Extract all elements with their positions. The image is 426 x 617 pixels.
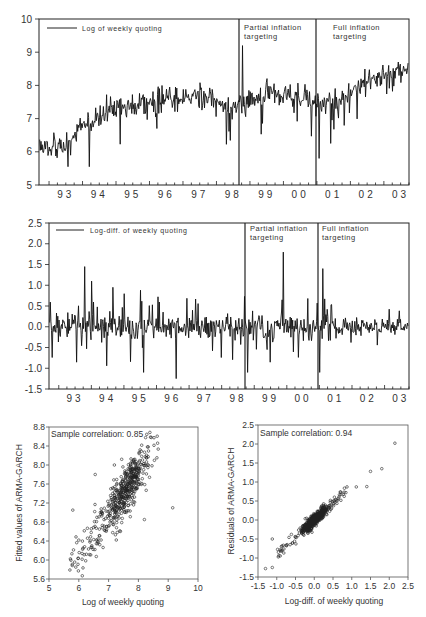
x-tick-label: 03	[392, 393, 409, 404]
scatter-points	[69, 431, 174, 577]
x-axis-title: Log of weekly quoting	[82, 597, 164, 607]
y-axis: -1.5-1.0-0.50.00.51.01.52.02.5	[239, 420, 258, 582]
x-tick-label: 97	[197, 393, 214, 404]
series-line	[40, 46, 408, 167]
x-tick-label: 96	[164, 393, 181, 404]
y-axis-title: Residuals of ARMA-GARCH	[226, 448, 236, 555]
y-tick-label: 2.0	[28, 238, 42, 249]
x-axis: 9394959697989900010203	[59, 385, 410, 404]
full-targeting-label-1: Full inflation	[322, 224, 369, 233]
x-tick-label: 98	[225, 189, 242, 200]
y-tick-label: 6.8	[33, 517, 45, 527]
x-tick-label: 01	[325, 189, 342, 200]
y-tick-label: 7.6	[33, 479, 45, 489]
correlation-label: Sample correlation: 0.85	[51, 429, 143, 439]
y-tick-label: 0.0	[28, 321, 42, 332]
partial-targeting-label-1: Partial inflation	[244, 23, 302, 32]
y-axis: 5.66.06.46.87.27.68.08.48.8	[33, 422, 49, 584]
scatter-points	[264, 442, 396, 570]
y-tick-label: 5	[26, 180, 32, 191]
x-tick-label: 7	[106, 583, 111, 593]
y-tick-label: 8.8	[33, 422, 45, 432]
y-tick-label: 0.5	[242, 496, 254, 506]
y-tick-label: 2.0	[242, 439, 254, 449]
y-tick-label: 0.5	[28, 301, 42, 312]
panel-scatter-residuals: -1.5-1.0-0.50.00.51.01.52.02.5 -1.5-1.0-…	[226, 420, 414, 606]
y-tick-label: 9	[26, 47, 32, 58]
x-tick-label: -0.5	[288, 581, 303, 591]
legend-label: Log of weekly quoting	[82, 25, 162, 33]
y-tick-label: 8	[26, 80, 32, 91]
x-tick-label: 5	[47, 583, 52, 593]
correlation-label: Sample correlation: 0.94	[260, 428, 352, 438]
series-line	[50, 252, 408, 379]
x-tick-label: -1.5	[251, 581, 266, 591]
x-tick-label: 2.5	[402, 581, 414, 591]
x-tick-label: 9	[166, 583, 171, 593]
panel-scatter-fitted: 5.66.06.46.87.27.68.08.48.8 5678910 Samp…	[14, 422, 203, 607]
y-axis: 5678910	[21, 14, 39, 191]
y-tick-label: 2.5	[28, 218, 42, 229]
panel-log-weekly-quoting: 5678910 9394959697989900010203 Log of we…	[21, 14, 409, 201]
x-tick-label: 1.0	[346, 581, 358, 591]
y-tick-label: 1.0	[242, 477, 254, 487]
plot-frame	[39, 19, 409, 185]
x-tick-label: 03	[392, 189, 409, 200]
x-tick-label: 1.5	[365, 581, 377, 591]
figure-canvas: 5678910 9394959697989900010203 Log of we…	[0, 0, 426, 617]
y-tick-label: 6.4	[33, 536, 45, 546]
y-tick-label: 2.5	[242, 420, 254, 430]
x-tick-label: 96	[158, 189, 175, 200]
x-tick-label: 93	[57, 189, 74, 200]
y-tick-label: 10	[21, 14, 33, 25]
x-tick-label: 01	[327, 393, 344, 404]
x-tick-label: 94	[99, 393, 116, 404]
x-tick-label: 10	[193, 583, 203, 593]
y-axis-title: Fitted values of ARMA-GARCH	[14, 444, 24, 562]
x-tick-label: -1.0	[269, 581, 284, 591]
y-tick-label: 7	[26, 113, 32, 124]
y-tick-label: 0.0	[242, 515, 254, 525]
panel-log-diff-weekly-quoting: -1.5-1.0-0.50.00.51.01.52.02.5 939495969…	[25, 218, 410, 405]
x-tick-label: 95	[124, 189, 141, 200]
y-axis: -1.5-1.0-0.50.00.51.01.52.02.5	[25, 218, 49, 395]
y-tick-label: -1.0	[25, 363, 43, 374]
y-tick-label: 6.0	[33, 555, 45, 565]
y-tick-label: -0.5	[25, 342, 43, 353]
x-tick-label: 98	[229, 393, 246, 404]
x-tick-label: 95	[132, 393, 149, 404]
y-tick-label: 7.2	[33, 498, 45, 508]
y-tick-label: -1.5	[25, 384, 43, 395]
x-axis: 9394959697989900010203	[49, 181, 409, 200]
x-tick-label: 00	[292, 189, 309, 200]
plot-frame	[49, 223, 409, 389]
full-targeting-label-2: targeting	[333, 32, 367, 41]
x-tick-label: 6	[76, 583, 81, 593]
x-tick-label: 94	[91, 189, 108, 200]
full-targeting-label-1: Full inflation	[333, 23, 380, 32]
y-tick-label: 5.6	[33, 574, 45, 584]
y-tick-label: -0.5	[239, 534, 254, 544]
x-tick-label: 8	[136, 583, 141, 593]
x-tick-label: 0.5	[327, 581, 339, 591]
y-tick-label: 1.0	[28, 280, 42, 291]
y-tick-label: 1.5	[242, 458, 254, 468]
y-tick-label: 8.0	[33, 460, 45, 470]
legend-label: Log-diff. of weekly quoting	[90, 227, 187, 235]
x-tick-label: 99	[262, 393, 279, 404]
x-tick-label: 99	[258, 189, 275, 200]
x-tick-label: 02	[360, 393, 377, 404]
y-tick-label: -1.0	[239, 553, 254, 563]
y-tick-label: 6	[26, 146, 32, 157]
y-tick-label: 8.4	[33, 441, 45, 451]
y-tick-label: 1.5	[28, 259, 42, 270]
partial-targeting-label-1: Partial inflation	[250, 224, 308, 233]
x-axis-title: Log-diff. of weekly quoting	[285, 596, 384, 606]
x-axis: -1.5-1.0-0.50.00.51.01.52.02.5	[251, 577, 415, 591]
x-axis: 5678910	[47, 579, 203, 593]
x-tick-label: 97	[191, 189, 208, 200]
full-targeting-label-2: targeting	[322, 233, 356, 242]
x-tick-label: 00	[295, 393, 312, 404]
x-tick-label: 93	[67, 393, 84, 404]
partial-targeting-label-2: targeting	[244, 32, 278, 41]
